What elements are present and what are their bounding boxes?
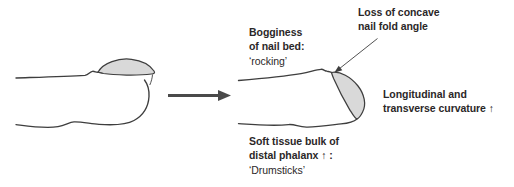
normal-finger-tip-and-bottom-contour: [16, 80, 149, 127]
label-soft-tissue-line2: distal phalanx ↑ :: [249, 148, 339, 162]
annotation-arrow-head: [334, 66, 342, 73]
transform-arrow-head: [218, 90, 231, 101]
finger-clubbing-diagram: Bogginess of nail bed: ‘rocking’ Loss of…: [0, 0, 514, 187]
normal-finger-nail: [98, 59, 155, 75]
clubbed-finger-illustration: [239, 69, 365, 127]
label-soft-tissue-line1: Soft tissue bulk of: [249, 134, 339, 148]
label-bogginess-line1: Bogginess: [249, 25, 304, 39]
clubbed-finger-bottom-contour: [239, 119, 358, 127]
label-soft-tissue: Soft tissue bulk of distal phalanx ↑ : ‘…: [249, 134, 339, 177]
label-soft-tissue-line3: ‘Drumsticks’: [249, 163, 339, 177]
clubbed-finger-top-contour: [239, 69, 332, 80]
label-nail-fold-line1: Loss of concave: [358, 5, 440, 19]
normal-finger-top-contour: [16, 71, 98, 78]
transform-arrow-icon: [168, 90, 231, 101]
label-bogginess-line2: of nail bed:: [249, 39, 304, 53]
annotation-arrow-icon: [334, 39, 377, 73]
label-nail-fold-angle: Loss of concave nail fold angle: [358, 5, 440, 34]
normal-finger-illustration: [16, 59, 155, 127]
label-nail-fold-line2: nail fold angle: [358, 19, 440, 33]
label-bogginess: Bogginess of nail bed: ‘rocking’: [249, 25, 304, 68]
clubbed-finger-nail: [332, 72, 365, 119]
label-curvature-line1: Longitudinal and: [383, 87, 494, 101]
normal-finger-nail-edge: [150, 75, 153, 86]
label-curvature-line2: transverse curvature ↑: [383, 101, 494, 115]
label-bogginess-line3: ‘rocking’: [249, 54, 304, 68]
annotation-arrow-line: [340, 39, 378, 69]
label-curvature: Longitudinal and transverse curvature ↑: [383, 87, 494, 116]
